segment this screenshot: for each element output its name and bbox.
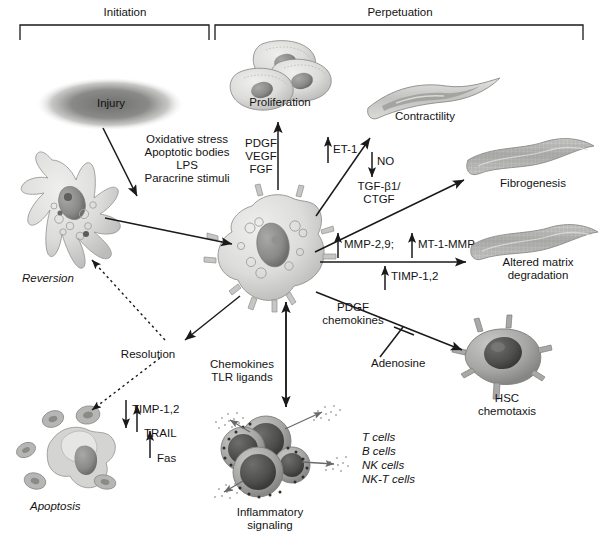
node-label-injury: Injury [72,97,150,110]
mediator-mmp: MMP-2,9; [344,238,394,251]
mediator-timp-apoptosis: TIMP-1,2 [132,403,179,416]
node-label-contractility: Contractility [380,110,470,123]
mediator-et1: ET-1 [333,143,357,156]
arrow-hsc-to-resolution [185,296,240,340]
node-label-inflammatory: Inflammatory signaling [222,506,318,532]
adenosine-inhibition [380,327,414,357]
mediator-no: NO [377,155,394,168]
bracket-initiation [20,25,209,40]
node-label-resolution: Resolution [110,348,186,361]
node-label-altered-matrix: Altered matrix degradation [490,256,586,282]
arrow-quiescent-to-activated [105,218,232,244]
mediator-adenosine: Adenosine [371,357,425,370]
immune-cell-types-list: T cells B cells NK cells NK-T cells [362,430,415,486]
node-label-hsc-chemotaxis: HSC chemotaxis [470,392,544,418]
mediator-tgf-ctgf: TGF-β1/ CTGF [348,180,410,206]
node-label-proliferation: Proliferation [243,96,317,109]
mediator-injury-stimuli: Oxidative stress Apoptotic bodies LPS Pa… [124,133,250,185]
mediator-timp-matrix: TIMP-1,2 [391,270,438,283]
altered-matrix-band [471,225,598,260]
inflammatory-cells-cluster [214,405,349,499]
node-label-fibrogenesis: Fibrogenesis [490,177,576,190]
mediator-trail: TRAIL [144,427,177,440]
apoptosis-cells [14,404,117,492]
mediator-chemokines-tlr: Chemokines TLR ligands [200,358,284,384]
phase-label-perpetuation: Perpetuation [330,6,470,19]
mediator-pdgf-chemokines: PDGF chemokines [316,301,390,327]
quiescent-hsc-cell [21,152,120,268]
mediator-fas: Fas [157,452,176,465]
figure-canvas: Initiation Perpetuation Injury Oxidative… [0,0,601,541]
phase-label-initiation: Initiation [70,6,180,19]
secretion-cloud-upper-right [313,405,341,421]
hsc-chemotaxis-cell [452,315,552,399]
mediator-proliferation-factors: PDGF VEGF FGF [240,137,282,176]
node-label-apoptosis: Apoptosis [30,500,81,513]
node-label-reversion: Reversion [22,272,74,285]
fibrogenesis-matrix [467,139,594,175]
mediator-mt1-mmp: MT-1-MMP [418,238,475,251]
arrow-reversion-dotted [92,260,165,340]
bracket-perpetuation [215,25,583,40]
